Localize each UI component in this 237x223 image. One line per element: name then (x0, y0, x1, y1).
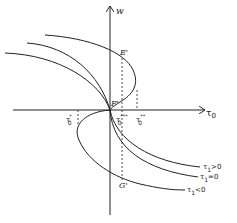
curve-label-eq0: τ1=0 (200, 173, 218, 183)
point-g-label: G' (119, 181, 128, 190)
curve-upper-inner (5, 53, 110, 110)
curve-label-lt0: τ1<0 (187, 186, 205, 196)
x-axis-label: τ0 (206, 108, 216, 120)
point-f-label: F' (110, 99, 119, 108)
tick-tau0-star: τ*0 (66, 113, 72, 126)
point-e-label: E' (119, 48, 128, 57)
curve-tau1-lt0 (77, 110, 185, 190)
tick-tau0-2star: τ**0 (136, 113, 146, 126)
curve-upper-mid (27, 43, 110, 110)
y-axis-label: w (116, 6, 124, 16)
curve-label-gt0: τ1>0 (203, 163, 221, 173)
curve-tau1-eq0 (110, 110, 198, 177)
phase-diagram: w τ0 E' F' G' τ*0 τ***0 τ**0 τ1>0 τ1=0 τ… (0, 0, 237, 223)
